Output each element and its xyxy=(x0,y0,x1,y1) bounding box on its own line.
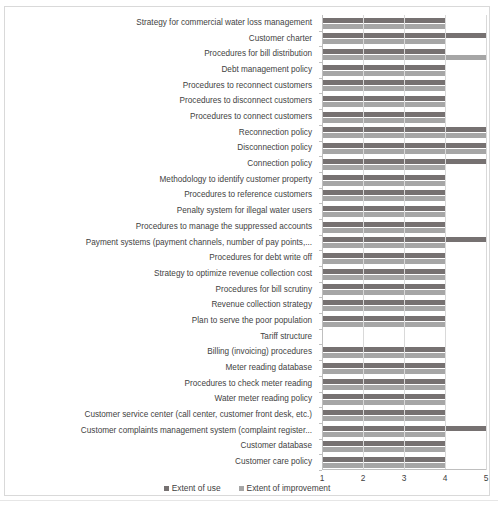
bar-extent-of-use xyxy=(322,410,445,415)
category-label: Procedures to disconnect customers xyxy=(180,96,312,105)
category-label: Procedures for bill scrutiny xyxy=(216,285,312,294)
category-label: Methodology to identify customer propert… xyxy=(160,175,312,184)
category-label: Procedures to reference customers xyxy=(184,190,312,199)
bar-extent-of-use xyxy=(322,457,445,462)
chart-page: Strategy for commercial water loss manag… xyxy=(0,0,498,531)
bar-extent-of-improvement xyxy=(322,306,445,311)
bar-extent-of-use xyxy=(322,96,445,101)
caption-strip xyxy=(0,500,498,531)
bar-extent-of-improvement xyxy=(322,400,445,405)
category-label: Procedures for debt write off xyxy=(209,253,312,262)
bar-extent-of-improvement xyxy=(322,39,445,44)
bar-extent-of-improvement xyxy=(322,86,445,91)
category-label: Customer database xyxy=(241,441,312,450)
legend-label: Extent of use xyxy=(172,483,221,493)
category-label: Customer care policy xyxy=(235,457,312,466)
bar-extent-of-use xyxy=(322,112,445,117)
category-axis-labels: Strategy for commercial water loss manag… xyxy=(11,15,318,470)
category-label: Payment systems (payment channels, numbe… xyxy=(86,238,312,247)
category-label: Procedures to check meter reading xyxy=(185,379,312,388)
category-label: Customer complaints management system (c… xyxy=(81,426,312,435)
caption-divider xyxy=(0,500,498,501)
category-label: Procedures for bill distribution xyxy=(204,49,312,58)
bar-extent-of-improvement xyxy=(322,416,445,421)
bar-extent-of-improvement xyxy=(322,181,445,186)
bar-extent-of-use xyxy=(322,363,445,368)
bar-extent-of-improvement xyxy=(322,196,445,201)
bar-extent-of-use xyxy=(322,175,445,180)
bar-extent-of-improvement xyxy=(322,385,445,390)
gridline-1 xyxy=(322,15,323,470)
gridline-5 xyxy=(486,15,487,470)
category-label: Billing (invoicing) procedures xyxy=(207,347,312,356)
bar-extent-of-improvement xyxy=(322,24,445,29)
bar-extent-of-improvement xyxy=(322,165,445,170)
bar-extent-of-improvement xyxy=(322,275,445,280)
category-label: Tariff structure xyxy=(260,332,312,341)
bar-extent-of-use xyxy=(322,394,445,399)
category-label: Customer charter xyxy=(249,34,312,43)
bar-extent-of-improvement xyxy=(322,118,445,123)
bar-extent-of-improvement xyxy=(322,322,445,327)
category-label: Meter reading database xyxy=(226,363,312,372)
bar-extent-of-improvement xyxy=(322,259,445,264)
bar-extent-of-use xyxy=(322,316,445,321)
bar-extent-of-improvement xyxy=(322,71,445,76)
category-label: Plan to serve the poor population xyxy=(192,316,312,325)
category-label: Procedures to reconnect customers xyxy=(183,81,312,90)
legend-swatch-icon xyxy=(239,486,244,491)
category-label: Debt management policy xyxy=(221,65,312,74)
bar-extent-of-use xyxy=(322,347,445,352)
bar-extent-of-use xyxy=(322,253,445,258)
category-label: Procedures to manage the suppressed acco… xyxy=(136,222,312,231)
legend-swatch-icon xyxy=(164,486,169,491)
category-label: Customer service center (call center, cu… xyxy=(84,410,312,419)
bar-extent-of-use xyxy=(322,284,445,289)
bar-extent-of-improvement xyxy=(322,463,445,468)
chart-frame: Strategy for commercial water loss manag… xyxy=(4,6,490,496)
bar-extent-of-use xyxy=(322,222,445,227)
category-label: Procedures to connect customers xyxy=(190,112,312,121)
bar-extent-of-improvement xyxy=(322,212,445,217)
category-label: Strategy for commercial water loss manag… xyxy=(136,18,312,27)
gridline-4 xyxy=(445,15,446,470)
bar-extent-of-use xyxy=(322,190,445,195)
bar-extent-of-use xyxy=(322,441,445,446)
legend-item-extent-of-use[interactable]: Extent of use xyxy=(164,483,221,493)
legend-label: Extent of improvement xyxy=(247,483,331,493)
bar-extent-of-improvement xyxy=(322,353,445,358)
category-tick xyxy=(319,470,322,471)
bar-extent-of-use xyxy=(322,18,445,23)
gridline-3 xyxy=(404,15,405,470)
bar-extent-of-improvement xyxy=(322,369,445,374)
bar-extent-of-improvement xyxy=(322,290,445,295)
category-label: Connection policy xyxy=(247,159,312,168)
x-axis-line xyxy=(322,469,486,470)
bar-extent-of-use xyxy=(322,379,445,384)
bar-extent-of-use xyxy=(322,206,445,211)
bar-extent-of-use xyxy=(322,269,445,274)
bar-extent-of-improvement xyxy=(322,102,445,107)
chart-legend: Extent of useExtent of improvement xyxy=(5,481,489,495)
category-label: Reconnection policy xyxy=(239,128,312,137)
bar-extent-of-improvement xyxy=(322,432,445,437)
bar-extent-of-use xyxy=(322,65,445,70)
bar-extent-of-use xyxy=(322,49,445,54)
category-label: Disconnection policy xyxy=(237,143,312,152)
bar-extent-of-use xyxy=(322,80,445,85)
category-label: Penalty system for illegal water users xyxy=(177,206,312,215)
legend-item-extent-of-improvement[interactable]: Extent of improvement xyxy=(239,483,331,493)
gridline-2 xyxy=(363,15,364,470)
plot-area xyxy=(322,15,486,470)
bar-extent-of-improvement xyxy=(322,243,445,248)
bar-extent-of-improvement xyxy=(322,228,445,233)
bar-extent-of-improvement xyxy=(322,447,445,452)
category-label: Water meter reading policy xyxy=(214,394,312,403)
category-label: Revenue collection strategy xyxy=(211,300,312,309)
bar-extent-of-use xyxy=(322,300,445,305)
category-label: Strategy to optimize revenue collection … xyxy=(154,269,312,278)
